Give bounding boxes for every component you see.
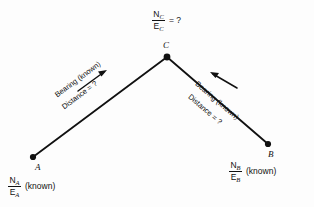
fraction-b: NB EB bbox=[229, 161, 242, 182]
coordinate-label-b: NB EB (known) bbox=[229, 161, 276, 182]
coordinate-c-status: = ? bbox=[169, 15, 181, 25]
fraction-c: NC EC bbox=[152, 10, 165, 31]
point-label-a: A bbox=[35, 163, 41, 172]
coordinate-label-c: NC EC = ? bbox=[152, 10, 181, 31]
fraction-b-denominator: EB bbox=[230, 172, 242, 182]
right-direction-arrow-icon bbox=[210, 72, 237, 88]
fraction-a: NA EA bbox=[8, 176, 21, 197]
fraction-c-numerator: NC bbox=[152, 10, 164, 20]
coordinate-b-status: (known) bbox=[246, 166, 276, 176]
coordinate-label-a: NA EA (known) bbox=[8, 176, 55, 197]
point-dot-a bbox=[30, 154, 36, 160]
fraction-a-numerator: NA bbox=[8, 176, 20, 186]
point-dot-b bbox=[265, 141, 271, 147]
fraction-a-denominator: EA bbox=[9, 187, 21, 197]
point-label-c: C bbox=[163, 41, 169, 50]
fraction-b-numerator: NB bbox=[229, 161, 241, 171]
point-dot-c bbox=[164, 54, 171, 61]
coordinate-a-status: (known) bbox=[25, 181, 55, 191]
traverse-diagram: C A B NC EC = ? NA EA (known) NB EB (kno… bbox=[0, 0, 314, 207]
fraction-c-denominator: EC bbox=[152, 21, 164, 31]
point-label-b: B bbox=[268, 150, 274, 159]
